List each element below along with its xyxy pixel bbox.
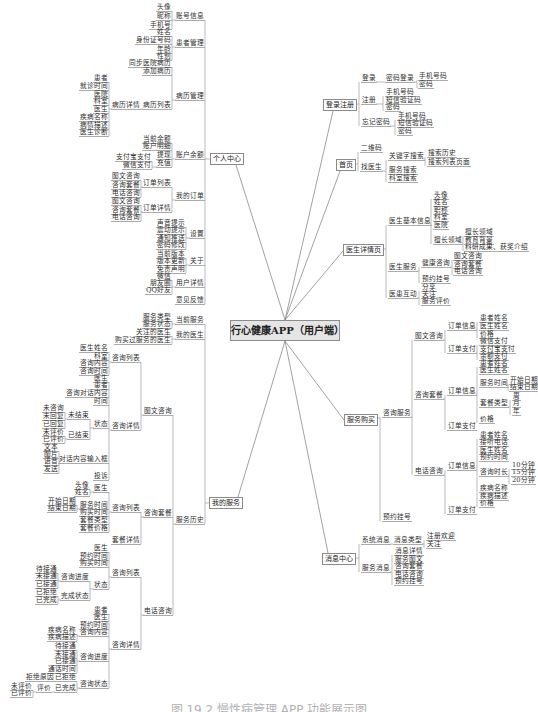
node-user-detail: 用户详情 (175, 279, 205, 288)
node-consult-service: 咨询服务 (382, 409, 412, 418)
branch-message-center: 消息中心 (322, 553, 356, 565)
leaf-node: 密码 (385, 103, 401, 112)
node-consult-duration: 咨询时长 (479, 468, 509, 477)
leaf-node: 身份证号码 (135, 36, 172, 45)
node-expertise: 擅长领域 (433, 236, 463, 245)
leaf-node: 微信支付 (122, 161, 152, 170)
leaf-node: 结束日期 (47, 504, 77, 513)
node-forgot-password: 忘记密码 (361, 118, 391, 127)
node-complaint: 投诉 (93, 472, 109, 481)
leaf-node: 图文咨询 (111, 197, 141, 206)
leaf-node: 密码修改 (156, 241, 186, 250)
leaf-node: 发送 (43, 465, 59, 474)
node-package-type: 套餐类型 (479, 399, 509, 408)
node-consult-progress: 咨询进度 (60, 573, 90, 582)
node-login: 登录 (361, 74, 377, 83)
node-rating: 评价 (36, 684, 52, 693)
node-record-detail: 病历详情 (111, 101, 141, 110)
node-order-payment: 订单支付 (447, 345, 477, 354)
node-order-detail: 订单详情 (142, 204, 172, 213)
leaf-node: 套餐价格 (79, 524, 109, 533)
leaf-node: 电话咨询 (111, 213, 141, 222)
node-history-text-consult: 图文咨询 (143, 407, 173, 416)
node-my-doctors: 我的医生 (175, 331, 205, 340)
node-record-management: 病历管理 (175, 92, 205, 101)
node-health-consult: 健康咨询 (421, 259, 451, 268)
leaf-node: 昵称 (156, 12, 172, 21)
leaf-node: 结束日期 (509, 383, 538, 392)
node-status: 状态 (93, 420, 109, 429)
node-order-payment: 订单支付 (447, 506, 477, 515)
node-service-history: 服务历史 (175, 516, 205, 525)
node-order-info: 订单信息 (447, 462, 477, 471)
node-account-balance: 账户余额 (175, 151, 205, 160)
leaf-node: 年 (512, 407, 521, 416)
leaf-node: 购买时间 (79, 559, 109, 568)
leaf-node: 价格 (479, 415, 495, 424)
node-purchase-phone-consult: 电话咨询 (414, 467, 444, 476)
node-status: 状态 (93, 581, 109, 590)
branch-personal-center: 个人中心 (210, 153, 244, 165)
node-my-orders: 我的订单 (175, 192, 205, 201)
node-appointment: 预约挂号 (382, 513, 412, 522)
node-about: 关于 (189, 257, 205, 266)
node-service-time: 服务时间 (479, 379, 509, 388)
node-doctor: 医生 (93, 484, 109, 493)
node-account-info: 账号信息 (175, 12, 205, 21)
node-history-phone-consult: 电话咨询 (143, 607, 173, 616)
leaf-node: 已评价 (10, 689, 33, 698)
node-qr-code: 二维码 (360, 144, 383, 153)
leaf-node: 服务评价 (421, 297, 451, 306)
node-rejected: 已拒绝 (54, 673, 77, 682)
node-consult-detail: 咨询详情 (111, 422, 141, 431)
leaf-node: 时间 (93, 397, 109, 406)
node-keyword-search: 关键字搜索 (388, 152, 425, 161)
leaf-node: 预约挂号 (394, 577, 424, 586)
leaf-node: 密码 (397, 127, 413, 136)
connector-lines (0, 0, 538, 712)
leaf-node: 充值 (156, 159, 172, 168)
leaf-node: 姓名 (74, 488, 90, 497)
node-find-doctor: 找医生 (360, 163, 383, 172)
leaf-node: 添加病历 (142, 67, 172, 76)
node-package-detail: 套餐详情 (111, 536, 141, 545)
node-order-info: 订单信息 (447, 387, 477, 396)
leaf-node: 图文咨询 (111, 172, 141, 181)
node-message-type: 消息类型 (393, 536, 423, 545)
branch-home: 首页 (336, 159, 356, 171)
leaf-node: 拒绝原因 (25, 673, 55, 682)
leaf-node: 已完成 (35, 596, 58, 605)
leaf-node: 医生姓名 (479, 366, 509, 375)
node-history-package-consult: 咨询套餐 (143, 509, 173, 518)
node-patient-management: 患者管理 (175, 39, 205, 48)
leaf-node: 搜索历史 (427, 149, 457, 158)
leaf-node: 电话咨询 (453, 267, 483, 276)
node-order-list: 订单列表 (142, 179, 172, 188)
node-current-service: 当前服务 (175, 316, 205, 325)
leaf-node: 账户明细 (142, 142, 172, 151)
node-finished: 已结束 (67, 431, 90, 440)
node-consult-state: 咨询状态 (79, 680, 109, 689)
node-input-box: 对话内容输入框 (58, 455, 109, 464)
node-purchase-package-consult: 咨询套餐 (414, 391, 444, 400)
leaf-node: 预约时间 (479, 453, 509, 462)
leaf-node: 搜索列表页面 (427, 158, 471, 167)
node-unfinished: 未结束 (67, 411, 90, 420)
leaf-node: 医生诊断 (79, 128, 109, 137)
node-consult-progress: 咨询进度 (79, 653, 109, 662)
node-settings: 设置 (189, 230, 205, 239)
leaf-node: 科研成果、获奖介绍 (464, 243, 529, 252)
node-doctor-patient-interaction: 医患互动 (388, 290, 418, 299)
node-system-messages: 系统消息 (361, 536, 391, 545)
node-doctor-service: 医生服务 (388, 263, 418, 272)
node-consult-detail: 咨询详情 (111, 641, 141, 650)
leaf-node: 医院 (433, 221, 449, 230)
leaf-node: 密码 (418, 80, 434, 89)
mindmap-canvas: 行心健康APP（用户端） 个人中心 账号信息 头像 昵称 手机号 患者管理 姓名… (0, 0, 538, 712)
node-feedback: 意见反馈 (175, 296, 205, 305)
node-password-login: 密码登录 (385, 74, 415, 83)
leaf-node: 头像 (156, 3, 172, 12)
leaf-node: 20分钟 (511, 476, 536, 485)
leaf-node: 科室搜索 (388, 174, 418, 183)
node-order-info: 订单信息 (447, 322, 477, 331)
